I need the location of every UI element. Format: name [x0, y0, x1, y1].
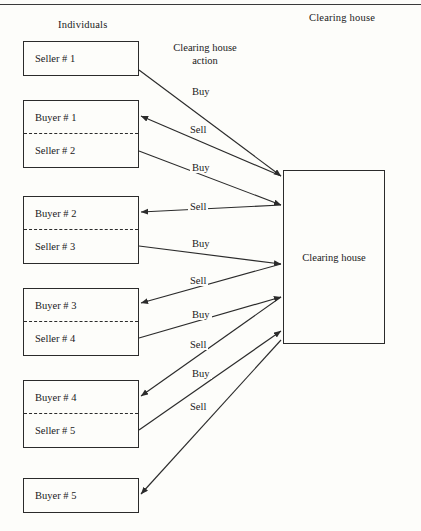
clearing-house-diagram: Individuals Clearing house Clearing hous… [0, 0, 421, 531]
party-row-buyer-1: Buyer # 1 [24, 101, 138, 134]
action-caption-line-2: action [164, 54, 246, 67]
column-title-clearing-house-action: Clearing house action [164, 41, 246, 67]
edge-buy-seller-5 [139, 331, 281, 430]
edge-label-buy-3: Buy [190, 238, 212, 249]
party-box-1: Seller # 1 [23, 41, 139, 76]
clearing-house-box: Clearing house [283, 170, 385, 344]
party-box-3: Buyer # 2 Seller # 3 [23, 196, 139, 264]
column-title-clearing-house: Clearing house [309, 12, 375, 23]
party-box-4: Buyer # 3 Seller # 4 [23, 288, 139, 356]
party-box-2: Buyer # 1 Seller # 2 [23, 100, 139, 168]
party-box-5: Buyer # 4 Seller # 5 [23, 380, 139, 448]
page-top-rule [0, 4, 421, 5]
edge-sell-buyer-5 [141, 340, 281, 494]
edge-label-buy-5: Buy [190, 368, 212, 379]
action-caption-line-1: Clearing house [164, 41, 246, 54]
edge-sell-buyer-2 [141, 205, 281, 212]
party-row-seller-3: Seller # 3 [24, 230, 138, 263]
party-row-buyer-4: Buyer # 4 [24, 381, 138, 414]
edge-label-sell-4: Sell [188, 339, 208, 350]
edge-label-sell-1: Sell [188, 124, 208, 135]
clearing-house-label: Clearing house [302, 252, 365, 263]
party-row-seller-2: Seller # 2 [24, 134, 138, 167]
edge-label-sell-2: Sell [188, 201, 208, 212]
party-row-seller-1: Seller # 1 [24, 42, 138, 75]
edge-label-sell-5: Sell [188, 401, 208, 412]
edge-label-sell-3: Sell [188, 275, 208, 286]
party-row-buyer-5: Buyer # 5 [24, 479, 138, 512]
edge-label-buy-2: Buy [190, 162, 212, 173]
party-row-seller-4: Seller # 4 [24, 322, 138, 355]
edge-sell-buyer-3 [141, 264, 281, 303]
party-box-6: Buyer # 5 [23, 478, 139, 513]
party-row-buyer-2: Buyer # 2 [24, 197, 138, 230]
edge-label-buy-4: Buy [190, 309, 212, 320]
edge-buy-seller-2 [139, 151, 281, 205]
edge-label-buy-1: Buy [190, 86, 212, 97]
column-title-individuals: Individuals [58, 19, 107, 30]
party-row-seller-5: Seller # 5 [24, 414, 138, 447]
party-row-buyer-3: Buyer # 3 [24, 289, 138, 322]
